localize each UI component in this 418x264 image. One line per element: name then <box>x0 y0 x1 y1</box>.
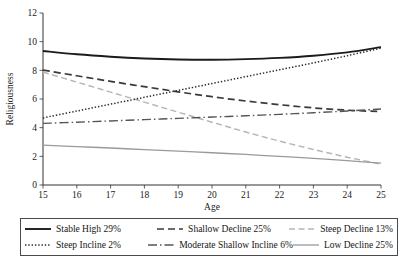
x-axis-tick-label: 23 <box>309 190 319 200</box>
y-axis-tick-label: 4 <box>32 123 37 133</box>
chart-series-line <box>43 47 381 60</box>
x-axis-tick-label: 20 <box>207 190 217 200</box>
legend-swatch-icon <box>148 240 174 250</box>
legend-item[interactable]: Stable High 29% <box>25 224 157 235</box>
y-axis-tick-label: 8 <box>32 66 37 76</box>
x-axis-tick-label: 17 <box>106 190 116 200</box>
legend-swatch-icon <box>289 224 315 234</box>
legend-item-label: Low Decline 25% <box>324 240 393 251</box>
legend-item[interactable]: Steep Incline 2% <box>25 240 148 251</box>
chart-series-line <box>43 109 381 123</box>
y-axis-tick-label: 2 <box>32 152 37 162</box>
x-axis-tick-label: 18 <box>140 190 150 200</box>
legend-row: Stable High 29% Shallow Decline 25% Stee… <box>25 221 393 237</box>
legend-swatch-icon <box>25 240 51 250</box>
y-axis-tick-label: 12 <box>28 8 38 18</box>
legend-item-label: Steep Decline 13% <box>320 224 393 235</box>
chart-series-line <box>43 48 381 118</box>
legend-item-label: Shallow Decline 25% <box>188 224 271 235</box>
x-axis-tick-label: 21 <box>241 190 251 200</box>
x-axis-title: Age <box>204 202 220 212</box>
x-axis-tick-label: 25 <box>376 190 386 200</box>
chart-container: 0246810121516171819202122232425AgeReligi… <box>0 0 418 264</box>
chart-series-line <box>43 145 381 163</box>
legend-item-label: Stable High 29% <box>56 224 121 235</box>
chart-legend: Stable High 29% Shallow Decline 25% Stee… <box>20 218 398 256</box>
legend-swatch-icon <box>157 224 183 234</box>
legend-item[interactable]: Shallow Decline 25% <box>157 224 289 235</box>
legend-swatch-icon <box>25 224 51 234</box>
legend-swatch-icon <box>293 240 319 250</box>
legend-item[interactable]: Steep Decline 13% <box>289 224 393 235</box>
x-axis-tick-label: 15 <box>38 190 48 200</box>
legend-row: Steep Incline 2% Moderate Shallow Inclin… <box>25 237 393 253</box>
legend-item[interactable]: Moderate Shallow Incline 6% <box>148 240 293 251</box>
y-axis-tick-label: 10 <box>28 37 38 47</box>
y-axis-tick-label: 0 <box>32 180 37 190</box>
chart-series-line <box>43 70 381 112</box>
legend-item-label: Steep Incline 2% <box>56 240 121 251</box>
x-axis-tick-label: 24 <box>342 190 352 200</box>
x-axis-tick-label: 19 <box>173 190 183 200</box>
legend-item[interactable]: Low Decline 25% <box>293 240 393 251</box>
legend-item-label: Moderate Shallow Incline 6% <box>179 240 293 251</box>
y-axis-title: Religiousness <box>5 72 15 125</box>
x-axis-tick-label: 22 <box>275 190 285 200</box>
y-axis-tick-label: 6 <box>32 94 37 104</box>
x-axis-tick-label: 16 <box>72 190 82 200</box>
chart-series-line <box>43 72 381 164</box>
line-chart-plot: 0246810121516171819202122232425AgeReligi… <box>0 0 418 215</box>
